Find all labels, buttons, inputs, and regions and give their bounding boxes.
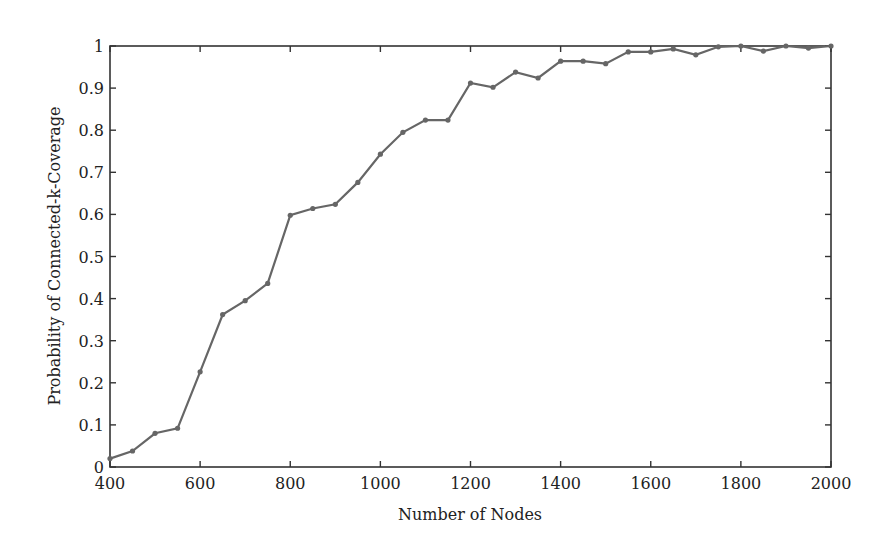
data-point [671,46,676,51]
data-point [355,180,360,185]
data-point [490,85,495,90]
data-point [828,43,833,48]
data-point [445,117,450,122]
x-tick-label: 600 [185,474,216,493]
data-point [220,312,225,317]
data-point [378,152,383,157]
plot-frame [110,46,831,467]
data-point [198,369,203,374]
data-point [783,43,788,48]
data-point [310,206,315,211]
x-tick-label: 1200 [450,474,491,493]
data-point [288,213,293,218]
x-tick-label: 1600 [630,474,671,493]
data-point [152,431,157,436]
data-point [626,49,631,54]
data-point [468,80,473,85]
y-tick-label: 1 [94,37,104,56]
y-axis: 00.10.20.30.40.50.60.70.80.91 [79,37,831,477]
y-tick-label: 0.5 [79,248,104,267]
y-axis-title: Probability of Connected-k-Coverage [45,106,64,405]
data-point [333,202,338,207]
y-tick-label: 0.1 [79,416,104,435]
plot-border [110,46,831,467]
x-axis-title: Number of Nodes [398,505,542,524]
data-point [400,130,405,135]
data-point [243,298,248,303]
y-tick-label: 0.2 [79,374,104,393]
x-tick-label: 1800 [721,474,762,493]
data-point [423,117,428,122]
x-axis: 400600800100012001400160018002000 [95,46,852,493]
data-point [535,75,540,80]
y-tick-label: 0.6 [79,205,104,224]
data-point [761,48,766,53]
data-point [806,46,811,51]
data-point [738,43,743,48]
line-chart: 00.10.20.30.40.50.60.70.80.91 4006008001… [0,0,889,555]
y-tick-label: 0.7 [79,163,104,182]
y-tick-label: 0.9 [79,79,104,98]
x-tick-label: 400 [95,474,126,493]
data-point [513,70,518,75]
data-point [603,61,608,66]
data-point [265,281,270,286]
y-tick-label: 0.4 [79,290,104,309]
x-tick-label: 800 [275,474,306,493]
data-point [130,448,135,453]
x-tick-label: 1400 [540,474,581,493]
data-point [107,456,112,461]
y-tick-label: 0.3 [79,332,104,351]
data-point [175,426,180,431]
data-point [693,52,698,57]
data-point [581,59,586,64]
x-tick-label: 2000 [811,474,852,493]
y-tick-label: 0.8 [79,121,104,140]
data-point-markers [107,43,833,461]
data-series-line [110,46,831,459]
data-point [558,59,563,64]
data-point [716,44,721,49]
data-point [648,49,653,54]
x-tick-label: 1000 [360,474,401,493]
